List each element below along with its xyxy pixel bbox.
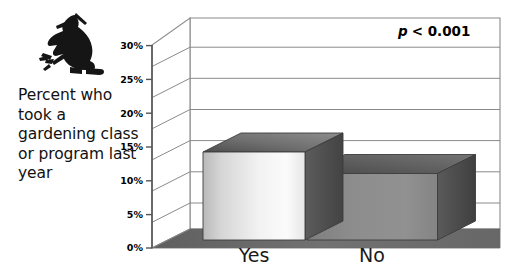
p-value-rest: < 0.001 (412, 23, 471, 39)
y-tick-25: 25% (120, 74, 143, 85)
y-axis (146, 45, 152, 248)
y-tick-30: 30% (120, 40, 143, 51)
category-label-yes: Yes (238, 244, 270, 266)
bar-chart-3d: 30% 25% 20% 15% 10% 5% 0% p< 0.001 (0, 0, 525, 270)
p-value-symbol: p (397, 23, 408, 39)
y-tick-5: 5% (127, 209, 144, 220)
bar-yes-side-face (305, 133, 343, 240)
plot-left-wall (152, 18, 190, 248)
bar-yes-front-face (203, 152, 305, 240)
y-tick-10: 10% (120, 175, 143, 186)
y-tick-0: 0% (127, 242, 144, 253)
y-tick-20: 20% (120, 108, 143, 119)
y-axis-tick-labels: 30% 25% 20% 15% 10% 5% 0% (120, 40, 143, 253)
category-label-no: No (359, 244, 385, 266)
figure-root: Percent who took a gardening class or pr… (0, 0, 525, 270)
bar-yes[interactable] (203, 133, 343, 240)
y-tick-15: 15% (120, 141, 143, 152)
